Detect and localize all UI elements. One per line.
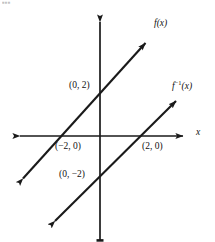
graph-canvas [0,0,215,242]
point-label-2-0: (2, 0) [142,142,163,152]
x-axis-label: x [196,128,200,138]
point-label-0-2: (0, 2) [69,81,90,91]
function-line-f [23,43,146,179]
curve-label-f-inverse: f−1(x) [172,80,192,92]
point-label-neg2-0: (−2, 0) [55,142,81,152]
function-line-f-inverse [55,101,176,221]
point-label-0-neg2: (0, −2) [59,170,85,180]
function-inverse-graph-figure: ▪▪▪ (0, 2) (−2, 0) (2, 0) (0, −2) f(x) f… [0,0,215,242]
curve-label-f-of-x: f(x) [154,19,167,29]
f-inverse-argument: (x) [182,81,193,91]
f-inverse-exponent: −1 [175,79,182,86]
